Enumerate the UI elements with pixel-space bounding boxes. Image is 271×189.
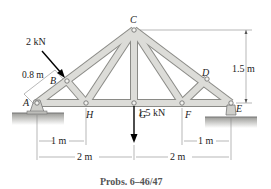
- roller-support-e: [226, 105, 236, 115]
- joint-label-b: B: [50, 75, 56, 86]
- joint-label-d: D: [201, 67, 210, 78]
- joint-label-c: C: [130, 14, 137, 25]
- load-1-5kn-arrow: [131, 106, 138, 143]
- load-2kn-label: 2 kN: [26, 36, 46, 47]
- joint-label-h: H: [85, 109, 94, 120]
- dim-ag-label: 2 m: [77, 151, 93, 162]
- load-2kn-arrow: [42, 51, 65, 78]
- dim-ah-label: 1 m: [51, 135, 67, 146]
- ground-left: [12, 113, 64, 125]
- joint-label-a: A: [22, 97, 30, 108]
- truss-diagram: 2 kN 0.8 m 1.5 m 1.5 kN 1 m 2 m 1 m 2 m …: [0, 0, 271, 189]
- joint-label-e: E: [235, 103, 242, 114]
- joint-label-g: G: [139, 109, 146, 120]
- dim-fe-label: 1 m: [198, 135, 214, 146]
- joint-label-f: F: [184, 109, 192, 120]
- dim-height-label: 1.5 m: [232, 63, 255, 74]
- dim-0-8m-label: 0.8 m: [22, 70, 44, 80]
- dim-ge-label: 2 m: [170, 151, 186, 162]
- figure-caption: Probs. 6–46/47: [100, 176, 163, 187]
